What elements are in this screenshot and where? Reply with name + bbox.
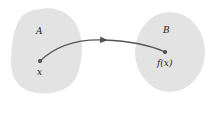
set-a-blob xyxy=(11,8,82,93)
set-a: A x xyxy=(11,8,82,93)
point-x-label: x xyxy=(37,67,42,77)
set-a-label: A xyxy=(35,26,43,36)
set-b-blob xyxy=(135,12,205,92)
function-mapping-diagram: A x B f(x) xyxy=(0,0,212,118)
set-b-label: B xyxy=(162,25,170,35)
point-fx-label: f(x) xyxy=(156,58,173,68)
set-b: B f(x) xyxy=(135,12,205,92)
